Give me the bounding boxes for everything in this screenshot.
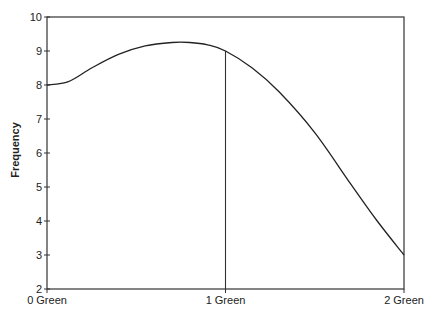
y-tick-label: 6 [36, 147, 42, 159]
x-axis-ticks: 0 Green1 Green2 Green [27, 289, 424, 306]
x-tick-label: 0 Green [27, 294, 67, 306]
y-tick-label: 7 [36, 113, 42, 125]
frequency-chart: 2345678910 0 Green1 Green2 Green [0, 0, 424, 317]
y-axis-label: Frequency [9, 122, 21, 178]
y-tick-label: 3 [36, 249, 42, 261]
y-tick-label: 9 [36, 45, 42, 57]
x-tick-label: 1 Green [206, 294, 246, 306]
y-tick-label: 5 [36, 181, 42, 193]
y-tick-label: 10 [30, 11, 42, 23]
y-tick-label: 8 [36, 79, 42, 91]
x-tick-label: 2 Green [384, 294, 424, 306]
y-tick-label: 4 [36, 215, 42, 227]
